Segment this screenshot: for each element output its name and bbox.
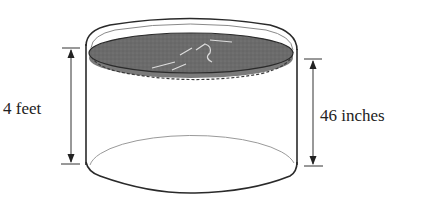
water-surface <box>89 33 293 80</box>
pool-diagram: 4 feet 46 inches <box>0 0 424 207</box>
cylinder-bottom-back-arc <box>90 135 294 165</box>
pool-height-label: 4 feet <box>3 99 42 118</box>
water-ellipse <box>89 33 293 73</box>
arrow-up-icon <box>310 60 317 69</box>
cylinder-bottom-front-arc <box>86 162 297 193</box>
arrow-up-icon <box>68 49 75 58</box>
water-depth-label: 46 inches <box>320 106 385 125</box>
pool-height-dimension: 4 feet <box>3 48 80 164</box>
water-depth-dimension: 46 inches <box>304 59 385 166</box>
arrow-down-icon <box>310 156 317 165</box>
arrow-down-icon <box>68 154 75 163</box>
